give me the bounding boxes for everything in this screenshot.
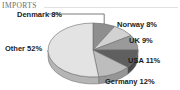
- slice-label-other: Other 52%: [5, 45, 42, 53]
- title-divider: [44, 7, 178, 8]
- slice-label-norway: Norway 8%: [117, 21, 157, 29]
- page-title: IMPORTS: [2, 1, 37, 10]
- slice-label-germany: Germany 12%: [105, 78, 155, 86]
- pie-top-slices: [48, 23, 138, 77]
- slice-label-usa: USA 11%: [128, 57, 160, 65]
- chart-canvas: IMPORTS Denmark 8% Norway 8% UK 9% USA 1…: [0, 0, 180, 90]
- slice-label-uk: UK 9%: [129, 37, 153, 45]
- slice-label-denmark: Denmark 8%: [17, 11, 62, 19]
